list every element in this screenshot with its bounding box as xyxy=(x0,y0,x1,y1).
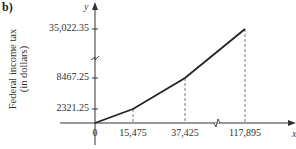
y-tick-label-2321: 2321.25 xyxy=(9,102,89,113)
y-axis-arrow-icon xyxy=(92,2,98,10)
tax-line xyxy=(95,29,245,123)
x-tick-label-37425: 37,425 xyxy=(160,127,210,138)
x-axis-break-icon xyxy=(214,119,220,127)
y-axis-variable: y xyxy=(84,1,88,12)
x-axis-variable: x xyxy=(292,128,296,139)
y-tick-label-8467: 8467.25 xyxy=(9,71,89,82)
x-tick-label-15475: 15,475 xyxy=(108,127,158,138)
x-tick-label-117895: 117,895 xyxy=(220,127,270,138)
y-tick-label-35022: 35,022.35 xyxy=(9,22,89,33)
x-axis-arrow-icon xyxy=(288,120,296,126)
y-axis-break-icon xyxy=(91,56,99,60)
